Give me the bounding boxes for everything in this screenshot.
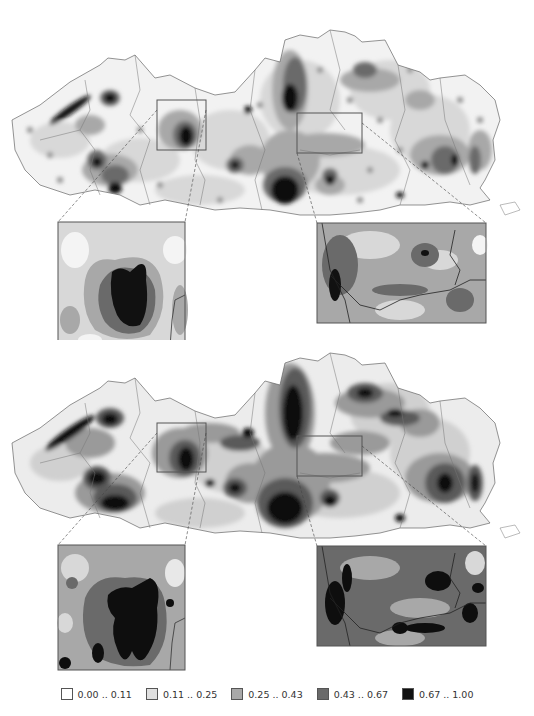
- legend-item: 0.43 .. 0.67: [317, 688, 388, 700]
- legend-label: 0.67 .. 1.00: [419, 689, 473, 700]
- top-right-inset: [317, 223, 488, 323]
- legend-item: 0.00 .. 0.11: [61, 688, 132, 700]
- legend-label: 0.25 .. 0.43: [248, 689, 302, 700]
- legend-label: 0.43 .. 0.67: [334, 689, 388, 700]
- top-left-inset: [58, 222, 188, 340]
- legend-swatch-icon: [317, 688, 329, 700]
- legend-swatch-icon: [231, 688, 243, 700]
- legend-swatch-icon: [61, 688, 73, 700]
- top-map-panel: [0, 10, 534, 340]
- legend-label: 0.00 .. 0.11: [78, 689, 132, 700]
- legend-swatch-icon: [146, 688, 158, 700]
- legend-item: 0.25 .. 0.43: [231, 688, 302, 700]
- legend-swatch-icon: [402, 688, 414, 700]
- bottom-map-panel: [0, 333, 534, 678]
- legend-label: 0.11 .. 0.25: [163, 689, 217, 700]
- bottom-map-svg: [0, 333, 534, 678]
- bottom-right-inset: [317, 546, 486, 646]
- legend-item: 0.67 .. 1.00: [402, 688, 473, 700]
- top-map-svg: [0, 10, 534, 340]
- bottom-left-inset: [57, 545, 185, 670]
- legend-item: 0.11 .. 0.25: [146, 688, 217, 700]
- legend: 0.00 .. 0.11 0.11 .. 0.25 0.25 .. 0.43 0…: [0, 684, 534, 704]
